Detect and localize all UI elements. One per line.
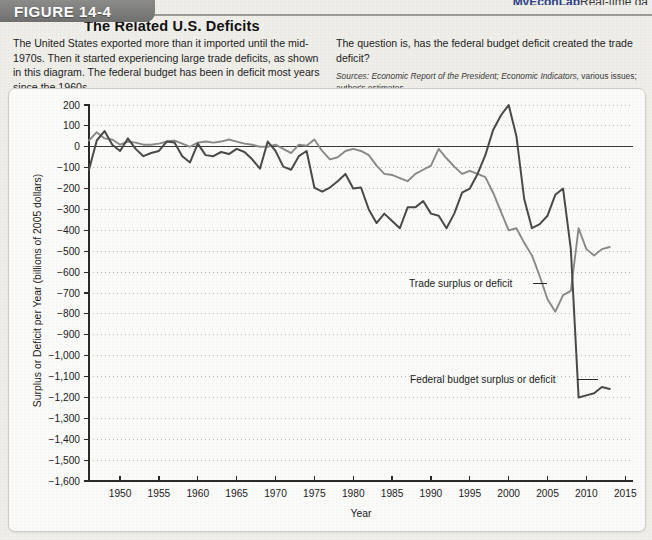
chart-annotation-budget: Federal budget surplus or deficit <box>410 374 556 385</box>
y-tick-label: −700 <box>57 288 80 299</box>
x-tick-label: 1995 <box>458 488 481 499</box>
y-tick-label: 0 <box>74 141 80 152</box>
y-tick-label: −600 <box>57 267 80 278</box>
deficits-line-chart: 2001000−100−200−300−400−500−600−700−800−… <box>9 89 646 532</box>
chart-panel: 2001000−100−200−300−400−500−600−700−800−… <box>8 88 646 532</box>
x-tick-label: 2000 <box>497 488 520 499</box>
series-line-trade <box>89 132 610 312</box>
x-tick-label: 1985 <box>381 488 404 499</box>
x-tick-label: 1960 <box>186 488 209 499</box>
plot-area: 2001000−100−200−300−400−500−600−700−800−… <box>9 89 645 531</box>
y-tick-label: 100 <box>63 120 80 131</box>
y-tick-label: −900 <box>57 329 80 340</box>
myeconlab-subtitle: Real-time da <box>580 0 648 5</box>
x-tick-label: 2015 <box>614 488 637 499</box>
y-tick-label: −1,100 <box>49 371 81 382</box>
description-left: The United States exported more than it … <box>13 36 325 94</box>
sources-italic-1: Economic Report of the President; <box>371 71 499 81</box>
description-right-column: The question is, has the federal budget … <box>336 36 648 94</box>
x-axis-title: Year <box>351 508 373 519</box>
x-tick-label: 1965 <box>225 488 248 499</box>
x-tick-label: 2010 <box>575 488 598 499</box>
y-tick-label: −800 <box>57 308 80 319</box>
myeconlab-badge: MyEconLabReal-time da <box>513 0 648 5</box>
y-tick-label: −400 <box>57 225 80 236</box>
chart-annotation-trade: Trade surplus or deficit <box>409 278 512 289</box>
x-tick-label: 1970 <box>264 488 287 499</box>
y-tick-label: 200 <box>63 100 80 111</box>
y-tick-label: −100 <box>57 162 80 173</box>
figure-number-tab: FIGURE 14-4 <box>0 0 155 22</box>
y-tick-label: −1,300 <box>49 413 81 424</box>
x-tick-label: 1975 <box>303 488 326 499</box>
x-tick-label: 2005 <box>536 488 559 499</box>
x-tick-label: 1955 <box>148 488 171 499</box>
y-tick-label: −500 <box>57 246 80 257</box>
description-right: The question is, has the federal budget … <box>336 36 648 65</box>
x-tick-label: 1990 <box>420 488 443 499</box>
y-tick-label: −1,200 <box>49 392 81 403</box>
y-tick-label: −1,600 <box>49 476 81 487</box>
header-rule <box>148 14 652 16</box>
figure-topbar: FIGURE 14-4 MyEconLabReal-time da <box>0 0 652 22</box>
figure-number-label: FIGURE 14-4 <box>14 3 111 20</box>
y-tick-label: −200 <box>57 183 80 194</box>
y-tick-label: −1,400 <box>49 434 81 445</box>
x-tick-label: 1950 <box>109 488 132 499</box>
y-tick-label: −1,000 <box>49 350 81 361</box>
y-tick-label: −1,500 <box>49 455 81 466</box>
sources-prefix: Sources: <box>336 71 369 81</box>
y-tick-label: −300 <box>57 204 80 215</box>
x-tick-label: 1980 <box>342 488 365 499</box>
myeconlab-brand: MyEconLab <box>513 0 580 5</box>
sources-italic-2: Economic Indicators, <box>501 71 579 81</box>
